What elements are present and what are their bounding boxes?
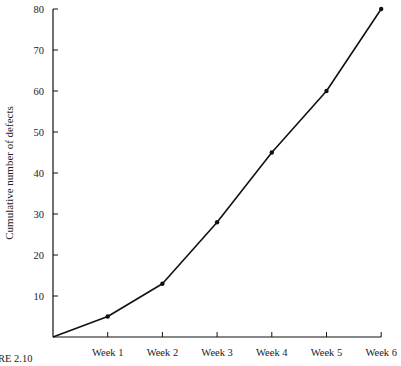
x-tick-label: Week 2: [147, 347, 179, 358]
x-tick-label: Week 6: [365, 347, 397, 358]
y-tick-label: 80: [34, 4, 45, 15]
y-tick-label: 20: [34, 250, 45, 261]
line-chart: 1020304050607080 Week 1Week 2Week 3Week …: [0, 0, 401, 366]
axes: [53, 9, 381, 337]
x-tick-label: Week 1: [92, 347, 124, 358]
data-point-marker: [379, 7, 383, 11]
x-axis-ticks: Week 1Week 2Week 3Week 4Week 5Week 6: [92, 332, 397, 358]
y-axis-ticks: 1020304050607080: [34, 4, 59, 302]
data-point-marker: [160, 282, 164, 286]
data-point-marker: [270, 150, 274, 154]
data-series: [53, 7, 383, 337]
y-tick-label: 60: [34, 86, 45, 97]
y-axis-title: Cumulative number of defects: [3, 106, 15, 240]
data-point-marker: [106, 314, 110, 318]
x-tick-label: Week 4: [256, 347, 288, 358]
y-tick-label: 10: [34, 291, 45, 302]
x-tick-label: Week 5: [311, 347, 343, 358]
data-point-marker: [215, 220, 219, 224]
x-tick-label: Week 3: [201, 347, 233, 358]
data-point-marker: [324, 89, 328, 93]
series-line: [53, 9, 381, 337]
y-tick-label: 40: [34, 168, 45, 179]
y-tick-label: 50: [34, 127, 45, 138]
y-tick-label: 70: [34, 45, 45, 56]
figure-caption-fragment: RE 2.10: [0, 353, 32, 364]
y-tick-label: 30: [34, 209, 45, 220]
